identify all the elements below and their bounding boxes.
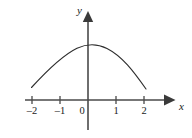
x-tick-label-1: 1 <box>108 106 124 117</box>
x-tick-label-2: 2 <box>136 106 152 117</box>
x-axis-label: x <box>179 101 184 112</box>
y-axis-label: y <box>77 5 82 16</box>
x-tick-label-minus-2: –2 <box>24 106 40 117</box>
plot-canvas <box>0 0 192 138</box>
x-tick-label-0: 0 <box>74 106 90 117</box>
y-axis-arrowhead <box>83 11 93 22</box>
x-axis-arrowhead <box>164 95 176 106</box>
x-tick-label-minus-1: –1 <box>52 106 68 117</box>
graph-figure: –2 –1 0 1 2 y x <box>0 0 192 138</box>
